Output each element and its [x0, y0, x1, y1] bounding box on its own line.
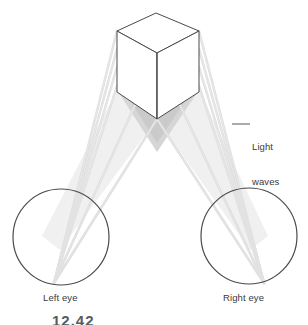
light-waves-label-line1: Light [252, 141, 279, 153]
stereopsis-diagram: Light waves Left eye Right eye 12.42 [0, 0, 308, 325]
figure-caption: 12.42 [52, 312, 95, 325]
light-waves-label-line2: waves [252, 176, 279, 188]
right-eye-label: Right eye [223, 292, 264, 304]
light-waves-label: Light waves [252, 118, 279, 210]
left-eye-label: Left eye [43, 292, 78, 304]
